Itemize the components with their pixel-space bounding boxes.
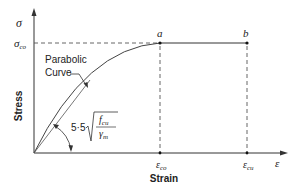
formula-denominator: γm [99, 128, 108, 141]
curve-label-line2: Curve [45, 67, 72, 78]
point-b-marker [245, 41, 248, 44]
x-axis-label: Strain [150, 173, 178, 184]
stress-strain-diagram: σ σco Stress Parabolic Curve a b 5·5 fcu… [0, 0, 299, 190]
initial-tangent-line [34, 80, 90, 153]
angle-arc-arrow-icon [69, 145, 74, 152]
epsilon-co-label: εco [156, 159, 167, 172]
slope-coefficient: 5·5 [71, 122, 86, 133]
epsilon-co-tick [159, 152, 162, 155]
epsilon-axis-symbol: ε [275, 157, 280, 169]
point-a-label: a [157, 27, 163, 39]
angle-arc [55, 126, 71, 150]
curve-label-leader [70, 74, 86, 85]
formula-numerator: fcu [99, 114, 109, 127]
curve-label-line1: Parabolic [45, 54, 87, 65]
sigma-co-label: σco [14, 37, 27, 51]
sigma-axis-symbol: σ [16, 16, 23, 30]
y-axis-label: Stress [13, 90, 24, 121]
point-b-label: b [243, 27, 249, 39]
y-axis-arrow-icon [32, 8, 37, 16]
epsilon-cu-label: εcu [243, 159, 254, 172]
epsilon-cu-tick [246, 152, 249, 155]
x-axis-arrow-icon [280, 151, 288, 156]
diagram-canvas: σ σco Stress Parabolic Curve a b 5·5 fcu… [0, 0, 299, 190]
point-a-marker [158, 41, 161, 44]
